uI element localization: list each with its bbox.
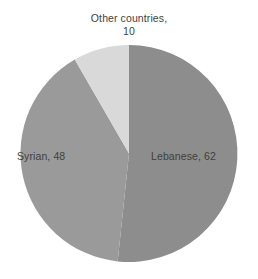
pie-label-other-countries: Other countries, 10 bbox=[0, 12, 258, 37]
pie-label-other-countries-line1: Other countries, bbox=[0, 12, 258, 25]
pie-chart-canvas bbox=[0, 0, 258, 279]
pie-label-syrian: Syrian, 48 bbox=[17, 150, 65, 163]
pie-label-other-countries-line2: 10 bbox=[0, 25, 258, 38]
pie-chart: Other countries, 10 Lebanese, 62 Syrian,… bbox=[0, 0, 258, 279]
pie-label-lebanese: Lebanese, 62 bbox=[151, 150, 216, 163]
